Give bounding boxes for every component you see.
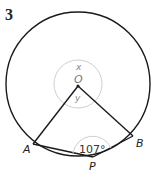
label-x: x — [75, 62, 82, 72]
angle-APB-value: 107° — [79, 143, 106, 156]
radius-OB — [78, 86, 133, 136]
label-O: O — [74, 73, 83, 86]
label-P: P — [89, 160, 96, 173]
label-y: y — [74, 93, 81, 103]
label-A: A — [22, 143, 31, 156]
label-B: B — [136, 137, 144, 150]
circle-diagram: x O y A B P 107° — [0, 0, 151, 175]
radius-OA — [33, 86, 78, 144]
